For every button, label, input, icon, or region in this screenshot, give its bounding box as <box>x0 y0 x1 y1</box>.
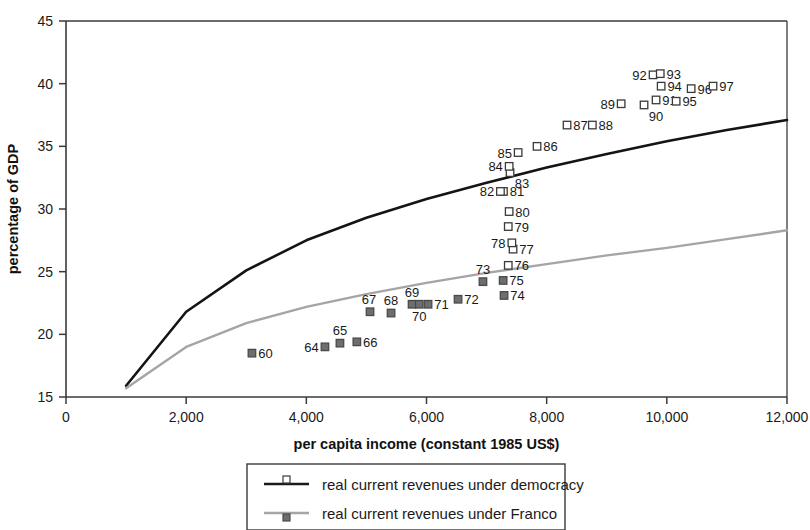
data-point-85[interactable] <box>514 149 522 157</box>
data-point-label-85: 85 <box>497 146 511 161</box>
data-point-89[interactable] <box>617 100 625 108</box>
data-point-label-97: 97 <box>719 79 733 94</box>
series-open-square: 7677787980818283848586878889909192939495… <box>480 67 734 274</box>
x-tick-label: 8,000 <box>529 409 564 425</box>
x-tick-label: 12,000 <box>766 409 809 425</box>
data-point-94[interactable] <box>657 82 665 90</box>
data-point-74[interactable] <box>500 292 508 300</box>
data-point-73[interactable] <box>479 278 487 286</box>
data-point-67[interactable] <box>366 308 374 316</box>
y-tick-label: 30 <box>37 201 53 217</box>
data-point-label-68: 68 <box>384 293 398 308</box>
data-point-label-73: 73 <box>476 262 490 277</box>
data-point-label-77: 77 <box>519 242 533 257</box>
data-point-label-94: 94 <box>667 79 681 94</box>
legend-label-1: real current revenues under Franco <box>322 505 557 522</box>
x-tick-label: 4,000 <box>289 409 324 425</box>
x-tick-label: 2,000 <box>169 409 204 425</box>
data-point-label-65: 65 <box>333 323 347 338</box>
data-point-71[interactable] <box>424 301 432 309</box>
y-tick-label: 35 <box>37 138 53 154</box>
data-point-label-66: 66 <box>363 335 377 350</box>
legend-marker-1 <box>283 514 290 521</box>
chart-legend: real current revenues under democracyrea… <box>247 464 584 530</box>
x-tick-label: 10,000 <box>645 409 688 425</box>
data-point-label-86: 86 <box>543 139 557 154</box>
data-point-label-84: 84 <box>488 159 502 174</box>
data-point-93[interactable] <box>657 70 665 78</box>
data-point-label-74: 74 <box>510 288 524 303</box>
x-axis-title: per capita income (constant 1985 US$) <box>294 436 560 452</box>
chart-figure: 1520253035404502,0004,0006,0008,00010,00… <box>0 0 810 530</box>
data-point-label-71: 71 <box>434 297 448 312</box>
data-point-label-76: 76 <box>514 258 528 273</box>
data-point-95[interactable] <box>672 98 680 106</box>
data-point-69[interactable] <box>408 301 416 309</box>
data-point-82[interactable] <box>497 188 505 196</box>
data-point-label-90: 90 <box>649 109 663 124</box>
data-point-84[interactable] <box>505 163 513 171</box>
x-tick-label: 0 <box>62 409 70 425</box>
data-point-label-80: 80 <box>515 205 529 220</box>
legend-marker-0 <box>283 476 290 483</box>
scatter-chart: 1520253035404502,0004,0006,0008,00010,00… <box>0 0 810 530</box>
data-point-90[interactable] <box>640 101 648 109</box>
data-point-label-79: 79 <box>514 220 528 235</box>
data-point-65[interactable] <box>336 339 344 347</box>
data-point-label-78: 78 <box>491 236 505 251</box>
data-point-60[interactable] <box>248 349 256 357</box>
legend-label-0: real current revenues under democracy <box>322 476 584 493</box>
data-point-87[interactable] <box>563 121 571 129</box>
data-point-label-64: 64 <box>304 340 318 355</box>
y-tick-label: 20 <box>37 326 53 342</box>
data-point-78[interactable] <box>508 239 515 247</box>
democracy-trend <box>126 120 787 386</box>
data-point-label-87: 87 <box>573 118 587 133</box>
data-point-66[interactable] <box>353 338 361 346</box>
data-point-label-82: 82 <box>480 184 494 199</box>
data-point-96[interactable] <box>687 85 695 93</box>
data-point-79[interactable] <box>505 223 513 231</box>
data-point-97[interactable] <box>709 82 717 90</box>
data-point-91[interactable] <box>652 96 660 104</box>
data-point-64[interactable] <box>321 343 329 351</box>
data-point-label-92: 92 <box>632 68 646 83</box>
data-point-68[interactable] <box>387 309 395 317</box>
data-point-92[interactable] <box>649 71 657 79</box>
data-point-label-75: 75 <box>509 273 523 288</box>
y-tick-label: 15 <box>37 389 53 405</box>
data-point-label-72: 72 <box>464 292 478 307</box>
y-tick-label: 45 <box>37 13 53 29</box>
data-point-label-69: 69 <box>405 285 419 300</box>
x-tick-label: 6,000 <box>409 409 444 425</box>
data-point-label-70: 70 <box>412 309 426 324</box>
data-point-label-95: 95 <box>682 94 696 109</box>
y-axis-title: percentage of GDP <box>5 143 21 274</box>
data-point-label-67: 67 <box>362 292 376 307</box>
data-point-label-88: 88 <box>599 118 613 133</box>
data-point-88[interactable] <box>589 121 597 129</box>
y-tick-label: 25 <box>37 264 53 280</box>
y-tick-label: 40 <box>37 76 53 92</box>
data-point-75[interactable] <box>499 277 507 285</box>
data-point-label-89: 89 <box>600 97 614 112</box>
data-point-70[interactable] <box>416 301 424 309</box>
data-point-86[interactable] <box>533 143 541 151</box>
data-point-80[interactable] <box>505 208 513 216</box>
data-point-72[interactable] <box>454 296 462 304</box>
data-point-label-83: 83 <box>515 176 529 191</box>
franco-trend <box>126 230 787 388</box>
data-point-76[interactable] <box>505 262 513 270</box>
data-point-label-60: 60 <box>258 346 272 361</box>
